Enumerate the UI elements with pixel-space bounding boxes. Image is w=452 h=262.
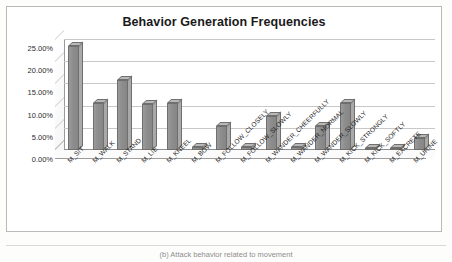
x-axis-category-labels: M_SITM_WALKM_STANDM_LIEM_KNEELM_BOWM_FOL… [64, 159, 444, 235]
bar-front-face [167, 103, 178, 150]
y-axis-tick-label: 5.00% [7, 133, 53, 142]
bar[interactable] [117, 80, 131, 150]
page-divider-rule [6, 245, 446, 246]
figure-caption: (b) Attack behavior related to movement [0, 250, 452, 262]
bar-front-face [142, 104, 153, 150]
chart-title: Behavior Generation Frequencies [7, 15, 441, 29]
bar-front-face [93, 103, 104, 150]
y-axis-tick-label: 25.00% [7, 44, 53, 53]
y-axis-tick-label: 20.00% [7, 66, 53, 75]
y-axis-tick-label: 10.00% [7, 111, 53, 120]
bar[interactable] [167, 103, 181, 150]
bar[interactable] [142, 104, 156, 150]
y-axis-tick-label: 15.00% [7, 88, 53, 97]
y-axis-tick-labels: 25.00%20.00%15.00%10.00%5.00%0.00% [7, 39, 53, 159]
bar[interactable] [93, 103, 107, 150]
bar-front-face [117, 80, 128, 150]
bar-side-face [128, 75, 132, 150]
bar[interactable] [68, 46, 82, 150]
bar-side-face [153, 99, 157, 150]
figure-frame: Behavior Generation Frequencies 25.00%20… [6, 6, 442, 232]
bar-side-face [79, 41, 83, 150]
bar-front-face [68, 46, 79, 150]
y-axis-tick-label: 0.00% [7, 155, 53, 164]
